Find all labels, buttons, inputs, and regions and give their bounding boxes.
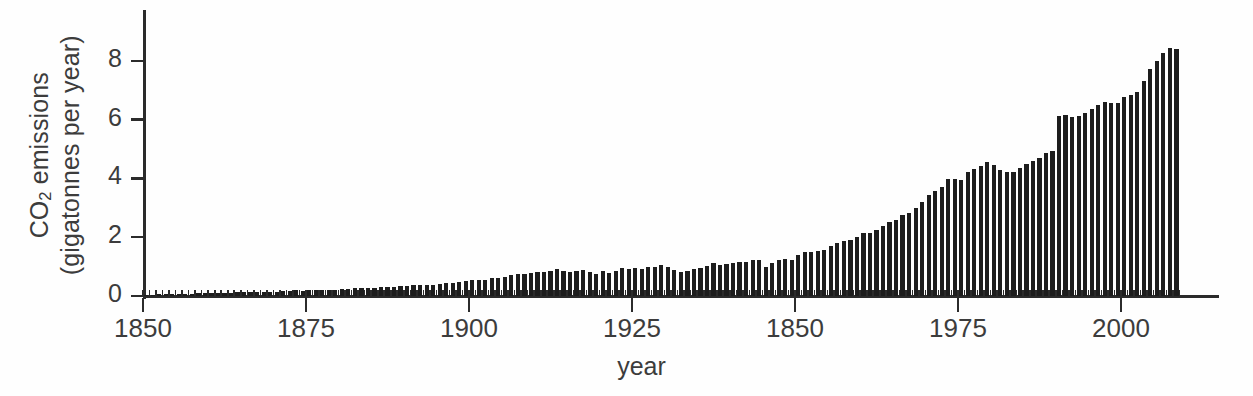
bar [1050, 151, 1054, 296]
bar [1090, 109, 1094, 296]
bar [262, 292, 266, 296]
bar [646, 267, 650, 296]
bar [822, 250, 826, 296]
bar [607, 273, 611, 296]
x-axis-title: year [0, 352, 1253, 381]
bar [229, 293, 233, 296]
bar [835, 243, 839, 296]
bar [946, 179, 950, 296]
bar [666, 267, 670, 296]
bar [496, 278, 500, 296]
bar [242, 292, 246, 296]
bar [255, 292, 259, 296]
x-axis-tick-label-1: 1875 [261, 313, 351, 344]
bar [451, 283, 455, 296]
bar [1174, 49, 1178, 296]
bar [1077, 116, 1081, 296]
bar [379, 287, 383, 296]
bar [894, 220, 898, 296]
bar [490, 278, 494, 296]
bar [268, 292, 272, 296]
bar [1142, 81, 1146, 296]
bar [718, 265, 722, 296]
bar [698, 268, 702, 296]
bar [783, 259, 787, 296]
bar [411, 285, 415, 296]
x-axis-tick-label-2: 1900 [424, 313, 514, 344]
bar [979, 166, 983, 296]
x-axis-tick-label-5: 1975 [913, 313, 1003, 344]
bar [1037, 158, 1041, 296]
bar [281, 291, 285, 296]
bar [568, 272, 572, 296]
bar [438, 284, 442, 296]
bar [711, 263, 715, 296]
bar [614, 271, 618, 296]
bar [353, 288, 357, 296]
bar [216, 293, 220, 296]
bar [157, 294, 161, 296]
bar [314, 290, 318, 296]
bar [848, 240, 852, 296]
x-axis-tick-label-4: 1850 [750, 313, 840, 344]
bar [842, 241, 846, 296]
bar [907, 213, 911, 296]
bar [685, 271, 689, 296]
bar [829, 246, 833, 296]
bar [333, 290, 337, 296]
bar [1057, 116, 1061, 296]
bar [1122, 97, 1126, 296]
bar [881, 226, 885, 296]
bar [190, 294, 194, 296]
bar [672, 270, 676, 296]
bar [953, 179, 957, 296]
bar [522, 274, 526, 296]
bar [307, 290, 311, 296]
bar [790, 260, 794, 296]
bar [998, 170, 1002, 296]
bar [164, 294, 168, 296]
x-axis-tick-1950 [794, 298, 796, 312]
bar [874, 230, 878, 296]
y-axis-title-line1: CO2 emissions [25, 72, 53, 238]
bar [470, 280, 474, 296]
bar [235, 292, 239, 296]
co2-emissions-figure: CO2 emissions (gigatonnes per year) 0246… [0, 0, 1253, 396]
bar [692, 269, 696, 296]
bar [183, 294, 187, 296]
subscript-two: 2 [36, 191, 54, 200]
bar [588, 272, 592, 296]
bar [555, 269, 559, 296]
bar [288, 291, 292, 296]
bar [757, 260, 761, 296]
bar [1070, 117, 1074, 296]
bar [444, 283, 448, 296]
bar [705, 266, 709, 296]
bar [940, 187, 944, 296]
y-axis-tick-label-2: 2 [82, 220, 122, 249]
x-axis-tick-label-6: 2000 [1076, 313, 1166, 344]
bar [1063, 115, 1067, 296]
bar [464, 281, 468, 296]
bar [222, 293, 226, 296]
x-axis-tick-label-0: 1850 [98, 313, 188, 344]
bar [431, 285, 435, 296]
bar [1024, 164, 1028, 296]
bar [581, 270, 585, 296]
bar [620, 268, 624, 296]
bar [920, 202, 924, 296]
x-axis-tick-1900 [468, 298, 470, 312]
x-axis-tick-2000 [1120, 298, 1122, 312]
bar [346, 289, 350, 296]
y-axis-title-line2: (gigatonnes per year) [56, 35, 86, 275]
bar [1011, 172, 1015, 296]
bar [170, 294, 174, 296]
bar [196, 293, 200, 296]
bar [1018, 168, 1022, 296]
bar [425, 285, 429, 296]
bar [1155, 61, 1159, 296]
bar [764, 267, 768, 296]
bar [542, 272, 546, 296]
bar [809, 252, 813, 296]
bar [796, 255, 800, 296]
